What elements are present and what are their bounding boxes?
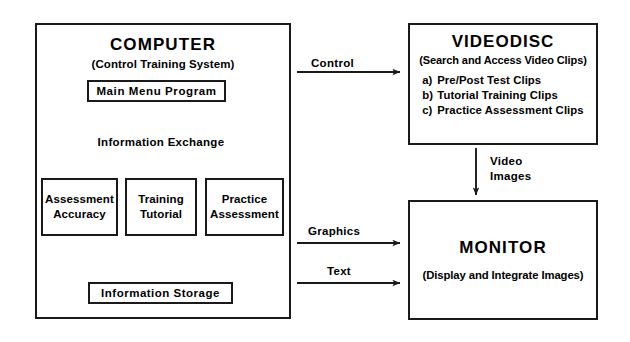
practice-assessment-label-line1: Practice [222,192,268,207]
videodisc-title: VIDEODISC [452,32,555,52]
assessment-accuracy-label-line2: Accuracy [53,207,106,222]
computer-block: COMPUTER (Control Training System) [35,23,291,319]
monitor-block: MONITOR (Display and Integrate Images) [408,200,598,320]
video-images-line1: Video [490,154,531,169]
training-tutorial-block: Training Tutorial [125,178,197,236]
training-tutorial-label-line2: Tutorial [140,207,182,222]
graphics-connector-label: Graphics [308,225,360,237]
computer-subtitle: (Control Training System) [91,58,234,70]
assessment-accuracy-label-line1: Assessment [45,192,114,207]
practice-assessment-block: Practice Assessment [205,178,284,236]
training-tutorial-label-line1: Training [138,192,184,207]
videodisc-clip-marker: c) [422,103,437,118]
information-storage-label: Information Storage [101,287,220,299]
videodisc-clip-text: Pre/Post Test Clips [437,74,541,86]
videodisc-clip-marker: a) [422,73,437,88]
monitor-subtitle: (Display and Integrate Images) [423,269,584,281]
text-connector-label: Text [327,265,351,277]
videodisc-clip-item: c)Practice Assessment Clips [422,103,584,118]
videodisc-clip-marker: b) [422,88,437,103]
assessment-accuracy-block: Assessment Accuracy [41,178,118,236]
information-storage-block: Information Storage [88,282,233,304]
videodisc-clip-text: Practice Assessment Clips [437,104,584,116]
computer-title: COMPUTER [110,35,216,55]
video-images-line2: Images [490,169,531,184]
information-exchange-label: Information Exchange [41,136,281,148]
videodisc-clip-list: a)Pre/Post Test Clips b)Tutorial Trainin… [422,73,584,118]
diagram-canvas: COMPUTER (Control Training System) Main … [0,0,630,342]
video-images-connector-label: Video Images [490,154,531,184]
videodisc-block: VIDEODISC (Search and Access Video Clips… [408,23,598,145]
monitor-title: MONITOR [459,238,547,258]
videodisc-clip-item: a)Pre/Post Test Clips [422,73,584,88]
practice-assessment-label-line2: Assessment [210,207,279,222]
main-menu-program-label: Main Menu Program [96,85,216,97]
videodisc-clip-text: Tutorial Training Clips [437,89,558,101]
videodisc-clip-item: b)Tutorial Training Clips [422,88,584,103]
videodisc-subtitle: (Search and Access Video Clips) [419,54,586,66]
main-menu-program-block: Main Menu Program [87,80,226,102]
control-connector-label: Control [311,57,354,69]
